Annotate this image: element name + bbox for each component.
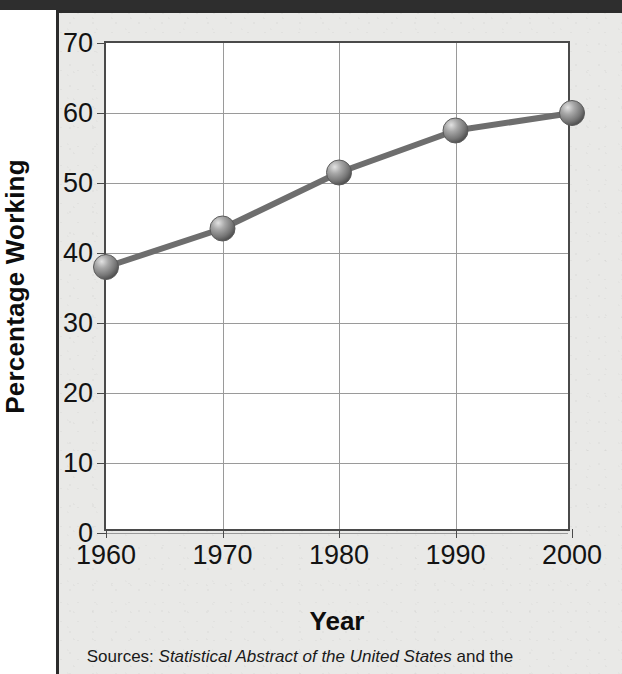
chart-figure: Percentage Working 010203040506070196019… [0, 0, 622, 674]
y-tick-mark [97, 43, 106, 44]
y-tick-label: 30 [63, 308, 93, 339]
y-tick-label: 10 [63, 448, 93, 479]
y-axis-title: Percentage Working [0, 41, 32, 531]
source-italic-title: Statistical Abstract of the United State… [159, 647, 452, 666]
series-line [106, 113, 572, 267]
x-tick-label: 1980 [309, 540, 369, 571]
y-tick-mark [97, 463, 106, 464]
data-point-marker: 2000: 60 [560, 101, 585, 126]
x-tick-mark [572, 529, 573, 538]
data-series: 1960: 381970: 43.51980: 51.51990: 57.520… [106, 43, 572, 533]
y-tick-mark [97, 393, 106, 394]
y-tick-label: 70 [63, 28, 93, 59]
x-axis-title: Year [104, 606, 570, 637]
y-tick-mark [97, 533, 106, 534]
header-band [0, 0, 622, 10]
y-tick-label: 40 [63, 238, 93, 269]
plot-area: 010203040506070196019701980199020001960:… [104, 41, 570, 531]
y-tick-mark [97, 113, 106, 114]
y-axis-title-label: Percentage Working [0, 159, 31, 414]
source-suffix: and the [452, 647, 513, 666]
data-point-marker: 1990: 57.5 [443, 118, 468, 143]
x-tick-label: 1970 [192, 540, 252, 571]
x-tick-label: 2000 [542, 540, 602, 571]
data-point-marker: 1980: 51.5 [327, 160, 352, 185]
y-tick-mark [97, 253, 106, 254]
data-point-marker: 1960: 38 [94, 255, 119, 280]
x-tick-label: 1990 [425, 540, 485, 571]
source-prefix: Sources: [87, 647, 159, 666]
y-tick-label: 20 [63, 378, 93, 409]
x-tick-label: 1960 [76, 540, 136, 571]
data-point-marker: 1970: 43.5 [210, 216, 235, 241]
y-tick-label: 60 [63, 98, 93, 129]
y-tick-mark [97, 183, 106, 184]
source-note: Sources: Statistical Abstract of the Uni… [40, 647, 560, 667]
y-tick-label: 50 [63, 168, 93, 199]
y-tick-mark [97, 323, 106, 324]
y-gridline [106, 533, 568, 534]
